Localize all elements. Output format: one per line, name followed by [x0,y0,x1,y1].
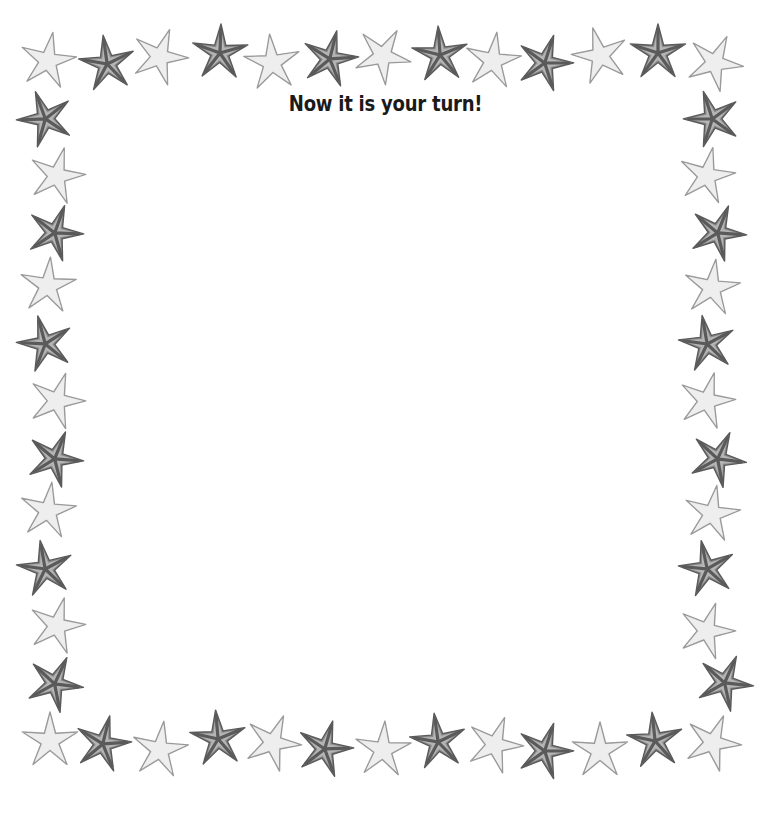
starfish-icon [129,718,191,780]
starfish-icon [72,712,134,774]
starfish-icon [676,537,738,599]
starfish-icon [241,31,303,93]
starfish-icon [569,24,631,86]
starfish-icon [24,652,86,714]
starfish-icon [294,717,356,779]
starfish-icon [352,24,414,86]
starfish-icon [129,25,191,87]
starfish-icon [26,594,88,656]
starfish-icon [681,256,743,318]
starfish-icon [17,254,79,316]
starfish-icon [17,29,79,91]
blank-writing-area [92,128,680,693]
page-title: Now it is your turn! [69,91,701,116]
worksheet-page: Now it is your turn! [0,0,771,818]
starfish-icon [514,719,576,781]
starfish-icon [624,709,686,771]
starfish-icon [682,711,744,773]
